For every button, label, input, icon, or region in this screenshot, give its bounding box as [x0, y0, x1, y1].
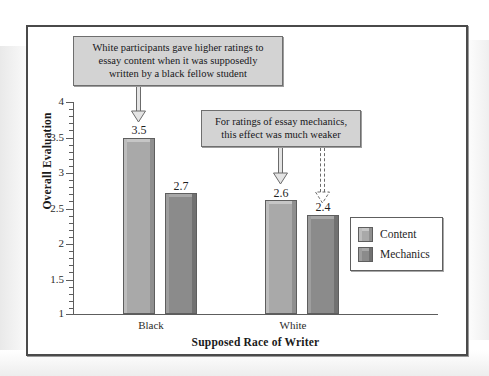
y-minor-tick	[69, 152, 73, 153]
bar-white-mechanics[interactable]	[307, 215, 339, 314]
y-axis-line	[73, 102, 74, 315]
y-minor-tick	[69, 258, 73, 259]
y-minor-tick	[69, 180, 73, 181]
annotation-callout-mechanics: For ratings of essay mechanics, this eff…	[201, 110, 361, 147]
annotation-arrow-shaft-mechanics-dashed	[320, 148, 325, 192]
y-minor-tick	[69, 201, 73, 202]
annotation-line: White participants gave higher ratings t…	[81, 41, 275, 54]
annotation-callout-content: White participants gave higher ratings t…	[73, 36, 283, 86]
y-minor-tick	[69, 145, 73, 146]
bar-outline	[307, 215, 339, 314]
annotation-line: essay content when it was supposedly	[81, 54, 275, 67]
y-minor-tick	[69, 301, 73, 302]
legend-label-content: Content	[380, 228, 416, 240]
annotation-arrow-head-mechanics-dashed	[315, 190, 330, 208]
y-minor-tick	[69, 166, 73, 167]
bar-outline	[165, 193, 197, 314]
y-minor-tick	[69, 265, 73, 266]
legend-item-mechanics[interactable]: Mechanics	[358, 244, 432, 264]
y-tick-3	[66, 173, 73, 174]
y-minor-tick	[69, 123, 73, 124]
y-tick-3-5	[66, 138, 73, 139]
x-axis-title: Supposed Race of Writer	[73, 336, 438, 348]
annotation-arrow-shaft-mechanics-solid	[278, 148, 283, 173]
y-tick-label-1: 1	[59, 308, 65, 319]
y-minor-tick	[69, 251, 73, 252]
y-tick-1-5	[66, 280, 73, 281]
bar-outline	[265, 200, 297, 314]
annotation-line: written by a black fellow student	[81, 67, 275, 80]
y-minor-tick	[69, 294, 73, 295]
bar-black-mechanics[interactable]	[165, 193, 197, 314]
y-minor-tick	[69, 116, 73, 117]
y-tick-label-1-5: 1.5	[50, 274, 64, 285]
y-tick-label-3: 3	[59, 167, 65, 178]
y-minor-tick	[69, 216, 73, 217]
x-category-label-white: White	[233, 319, 353, 331]
x-axis-line	[73, 314, 438, 315]
y-tick-label-4: 4	[59, 96, 65, 107]
y-minor-tick	[69, 272, 73, 273]
y-tick-4	[66, 102, 73, 103]
y-axis-title: Overall Evaluation	[41, 86, 53, 236]
annotation-line: For ratings of essay mechanics,	[209, 115, 353, 128]
y-minor-tick	[69, 230, 73, 231]
y-minor-tick	[69, 223, 73, 224]
bar-value-black-mechanics: 2.7	[151, 179, 211, 194]
y-minor-tick	[69, 237, 73, 238]
legend-item-content[interactable]: Content	[358, 224, 432, 244]
y-tick-2	[66, 244, 73, 245]
y-minor-tick	[69, 159, 73, 160]
x-category-label-black: Black	[91, 319, 211, 331]
legend-swatch-content-icon	[358, 227, 373, 242]
y-minor-tick	[69, 308, 73, 309]
bar-white-content[interactable]	[265, 200, 297, 314]
y-minor-tick	[69, 109, 73, 110]
bar-black-content[interactable]	[123, 138, 155, 315]
legend-swatch-mechanics-icon	[358, 247, 373, 262]
annotation-arrow-head-mechanics-solid	[273, 171, 288, 189]
annotation-arrow-head-content	[131, 109, 146, 127]
chart-legend: Content Mechanics	[350, 217, 443, 271]
y-tick-1	[66, 314, 73, 315]
y-minor-tick	[69, 287, 73, 288]
plot-area: 4 3.5 3 2.5 2 1.5 1 Overall Evaluation S…	[28, 27, 466, 354]
figure-frame: 4 3.5 3 2.5 2 1.5 1 Overall Evaluation S…	[26, 25, 468, 356]
annotation-line: this effect was much weaker	[209, 128, 353, 141]
annotation-arrow-shaft-content	[136, 87, 141, 111]
y-minor-tick	[69, 130, 73, 131]
y-tick-label-2: 2	[59, 238, 65, 249]
y-minor-tick	[69, 194, 73, 195]
y-minor-tick	[69, 187, 73, 188]
bar-outline	[123, 138, 155, 315]
legend-label-mechanics: Mechanics	[380, 248, 430, 260]
y-tick-2-5	[66, 209, 73, 210]
